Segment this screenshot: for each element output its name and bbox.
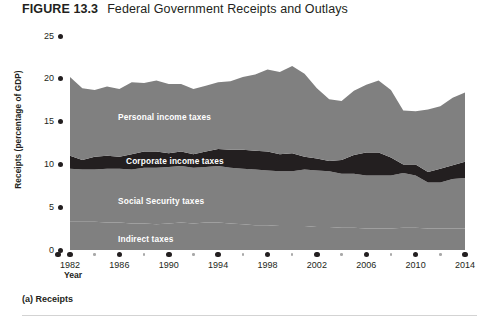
x-tick-dot-major-2014 bbox=[462, 252, 468, 258]
y-tick-label-25: 25 bbox=[28, 32, 54, 41]
x-tick-dot-major-1986 bbox=[117, 252, 123, 258]
x-tick-dot-minor-2008 bbox=[390, 253, 393, 256]
x-tick-dot-minor-2012 bbox=[439, 253, 442, 256]
y-tick-label-0: 0 bbox=[28, 246, 54, 255]
panel-caption: (a) Receipts bbox=[22, 294, 73, 304]
x-tick-dot-minor-1988 bbox=[143, 253, 146, 256]
chart-area: Receipts (percentage of GDP) 0510152025 … bbox=[0, 0, 493, 290]
x-tick-label-2006: 2006 bbox=[346, 261, 386, 270]
x-tick-label-2014: 2014 bbox=[445, 261, 485, 270]
plot-surface bbox=[70, 36, 465, 250]
x-tick-label-1990: 1990 bbox=[149, 261, 189, 270]
x-tick-dot-minor-1996 bbox=[242, 253, 245, 256]
y-tick-dot-20 bbox=[58, 76, 63, 81]
band-label-social-security-taxes: Social Security taxes bbox=[118, 196, 204, 206]
x-axis-title: Year bbox=[53, 270, 93, 280]
x-tick-label-1986: 1986 bbox=[99, 261, 139, 270]
y-tick-label-20: 20 bbox=[28, 74, 54, 83]
band-label-personal-income-taxes: Personal income taxes bbox=[118, 112, 211, 122]
x-tick-dot-major-2006 bbox=[364, 252, 370, 258]
y-tick-label-15: 15 bbox=[28, 117, 54, 126]
x-tick-dot-major-1990 bbox=[166, 252, 172, 258]
y-tick-dot-10 bbox=[58, 162, 63, 167]
x-tick-dot-major-2010 bbox=[413, 252, 419, 258]
x-tick-dot-major-1994 bbox=[215, 252, 221, 258]
x-tick-dot-major-1998 bbox=[265, 252, 271, 258]
band-label-indirect-taxes: Indirect taxes bbox=[118, 234, 174, 244]
x-tick-label-1982: 1982 bbox=[50, 261, 90, 270]
band-label-corporate-income-taxes: Corporate income taxes bbox=[126, 156, 224, 166]
x-tick-dot-minor-1984 bbox=[93, 253, 96, 256]
stacked-area-svg bbox=[70, 36, 465, 250]
x-tick-dot-minor-2004 bbox=[340, 253, 343, 256]
y-tick-label-10: 10 bbox=[28, 160, 54, 169]
footer-rule bbox=[22, 315, 477, 316]
x-tick-dot-minor-1992 bbox=[192, 253, 195, 256]
x-tick-label-2010: 2010 bbox=[396, 261, 436, 270]
y-tick-dot-25 bbox=[58, 34, 63, 39]
y-tick-label-5: 5 bbox=[28, 203, 54, 212]
x-tick-label-1994: 1994 bbox=[198, 261, 238, 270]
y-axis-title: Receipts (percentage of GDP) bbox=[14, 55, 23, 205]
x-tick-label-2002: 2002 bbox=[297, 261, 337, 270]
y-tick-dot-15 bbox=[58, 119, 63, 124]
x-tick-label-1998: 1998 bbox=[248, 261, 288, 270]
x-axis-origin-dot bbox=[55, 252, 61, 258]
x-tick-dot-major-1982 bbox=[67, 252, 73, 258]
y-tick-dot-5 bbox=[58, 205, 63, 210]
x-tick-dot-major-2002 bbox=[314, 252, 320, 258]
x-tick-dot-minor-2000 bbox=[291, 253, 294, 256]
